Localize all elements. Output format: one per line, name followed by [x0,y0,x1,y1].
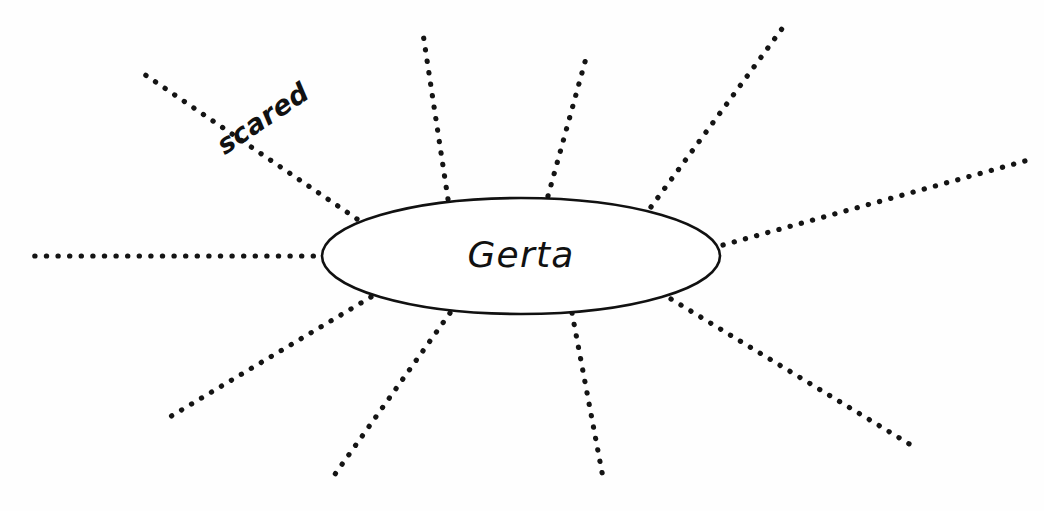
mindmap-drawing: Gerta scared [0,0,1044,511]
center-node-label: Gerta [467,234,574,275]
branch-top-right[interactable] [548,51,588,196]
branch-labels-group: scared [211,76,315,160]
branch-bottom-left[interactable] [333,313,450,477]
branch-lower-right[interactable] [671,299,911,445]
branch-top-left[interactable] [422,27,448,199]
branch-right[interactable] [723,161,1025,245]
mindmap-canvas: Gerta scared [0,0,1044,511]
branch-lower-left[interactable] [163,297,371,421]
center-node-group[interactable]: Gerta [322,198,720,314]
branch-bottom-right[interactable] [572,313,604,483]
branch-upper-right[interactable] [651,26,784,207]
branch-upper-left-label: scared [211,76,315,160]
